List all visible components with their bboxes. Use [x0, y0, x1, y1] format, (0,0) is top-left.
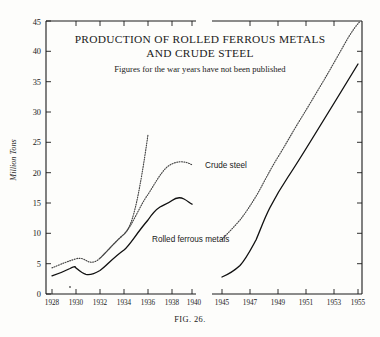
- y-tick-label: 5: [37, 260, 41, 269]
- x-tick-label: 1949: [271, 299, 286, 307]
- x-tick-label: 1936: [141, 299, 156, 307]
- x-tick-label: 1945: [215, 299, 230, 307]
- chart-svg: 0 5 10 15 20 25 30 35 40 45 Million Tons: [0, 0, 380, 337]
- chart-title-line2: AND CRUDE STEEL: [146, 47, 254, 59]
- figure-caption: FIG. 26.: [174, 315, 205, 324]
- x-tick-label: 1932: [93, 299, 108, 307]
- paper-speck: [69, 286, 71, 288]
- x-tick-label: 1938: [165, 299, 180, 307]
- y-axis-title: Million Tons: [9, 139, 18, 181]
- x-tick-label: 1934: [117, 299, 132, 307]
- series-label-rolled-ferrous-metals: Rolled ferrous metals: [152, 235, 229, 244]
- chart-subtitle: Figures for the war years have not been …: [114, 64, 286, 74]
- x-tick-label: 1928: [45, 299, 60, 307]
- y-tick-label: 45: [33, 18, 41, 27]
- y-tick-label: 40: [33, 47, 41, 56]
- x-tick-label: 1940: [187, 299, 202, 307]
- x-tick-label: 1947: [243, 299, 258, 307]
- y-tick-label: 15: [33, 199, 41, 208]
- y-tick-label: 35: [33, 78, 41, 87]
- y-tick-label: 0: [37, 290, 41, 299]
- chart-title-line1: PRODUCTION OF ROLLED FERROUS METALS: [75, 33, 326, 45]
- figure-container: 0 5 10 15 20 25 30 35 40 45 Million Tons: [0, 0, 380, 337]
- x-tick-label: 1930: [69, 299, 84, 307]
- y-tick-label: 20: [33, 169, 41, 178]
- y-tick-label: 10: [33, 229, 41, 238]
- series-label-crude-steel: Crude steel: [205, 161, 247, 170]
- x-tick-label: 1951: [299, 299, 314, 307]
- y-tick-label: 30: [33, 108, 41, 117]
- x-tick-label: 1953: [327, 299, 342, 307]
- x-tick-label: 1955: [351, 299, 366, 307]
- y-tick-label: 25: [33, 138, 41, 147]
